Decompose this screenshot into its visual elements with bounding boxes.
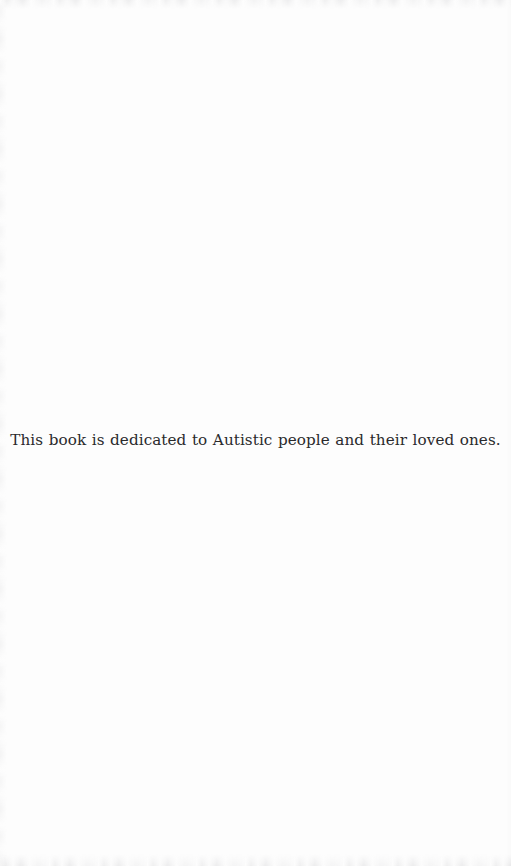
scan-artifact-top-edge (0, 0, 511, 9)
dedication-text: This book is dedicated to Autistic peopl… (10, 427, 500, 453)
dedication-page: This book is dedicated to Autistic peopl… (0, 0, 511, 866)
dedication-block: This book is dedicated to Autistic peopl… (0, 427, 511, 453)
scan-artifact-bottom-edge (0, 854, 511, 866)
